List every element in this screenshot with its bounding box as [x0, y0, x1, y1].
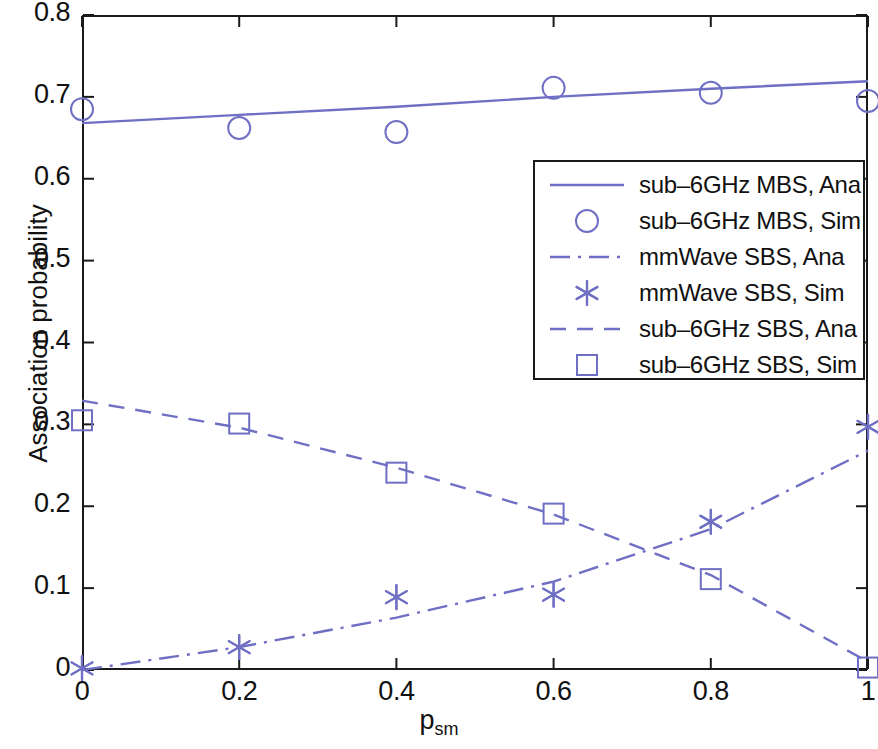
series-5 — [72, 410, 878, 677]
y-tick-label: 0.8 — [8, 0, 70, 28]
y-tick-label: 0.7 — [8, 79, 70, 110]
legend-sample-dashed-line — [535, 311, 639, 347]
x-tick-label: 0.8 — [666, 676, 756, 707]
legend-label: mmWave SBS, Sim — [639, 279, 844, 307]
legend-item[interactable]: sub–6GHz SBS, Sim — [535, 347, 863, 383]
legend-item[interactable]: sub–6GHz SBS, Ana — [535, 311, 863, 347]
legend-label: sub–6GHz MBS, Sim — [639, 207, 861, 235]
legend-item[interactable]: mmWave SBS, Sim — [535, 275, 863, 311]
legend-sample-asterisk-marker — [535, 275, 639, 311]
legend-sample-dashdot-line — [535, 239, 639, 275]
series-3 — [72, 415, 878, 681]
x-tick-label: 0.6 — [509, 676, 599, 707]
series-4 — [82, 401, 868, 662]
legend-label: mmWave SBS, Ana — [639, 243, 844, 271]
legend-item[interactable]: mmWave SBS, Ana — [535, 239, 863, 275]
legend-sample-circle-marker — [535, 203, 639, 239]
series-0 — [82, 81, 868, 123]
legend-item[interactable]: sub–6GHz MBS, Sim — [535, 203, 863, 239]
x-axis-title-base: p — [419, 705, 434, 735]
legend-box: sub–6GHz MBS, Anasub–6GHz MBS, SimmmWave… — [533, 160, 865, 380]
legend-sample-square-marker — [535, 347, 639, 383]
x-tick-label: 0 — [37, 676, 127, 707]
chart-figure: 00.10.20.30.40.50.60.70.8 00.20.40.60.81… — [0, 0, 878, 749]
x-tick-label: 0.2 — [194, 676, 284, 707]
legend-label: sub–6GHz SBS, Sim — [639, 351, 857, 379]
y-axis-title: Association probability — [23, 154, 54, 514]
x-axis-title: psm — [0, 705, 878, 740]
legend-label: sub–6GHz SBS, Ana — [639, 315, 857, 343]
legend-label: sub–6GHz MBS, Ana — [639, 171, 861, 199]
x-axis-title-subscript: sm — [435, 719, 459, 739]
legend-item[interactable]: sub–6GHz MBS, Ana — [535, 167, 863, 203]
y-tick-label: 0.1 — [8, 570, 70, 601]
series-2 — [82, 451, 868, 670]
legend-sample-solid-line — [535, 167, 639, 203]
x-tick-label: 1 — [823, 676, 878, 707]
x-tick-label: 0.4 — [351, 676, 441, 707]
